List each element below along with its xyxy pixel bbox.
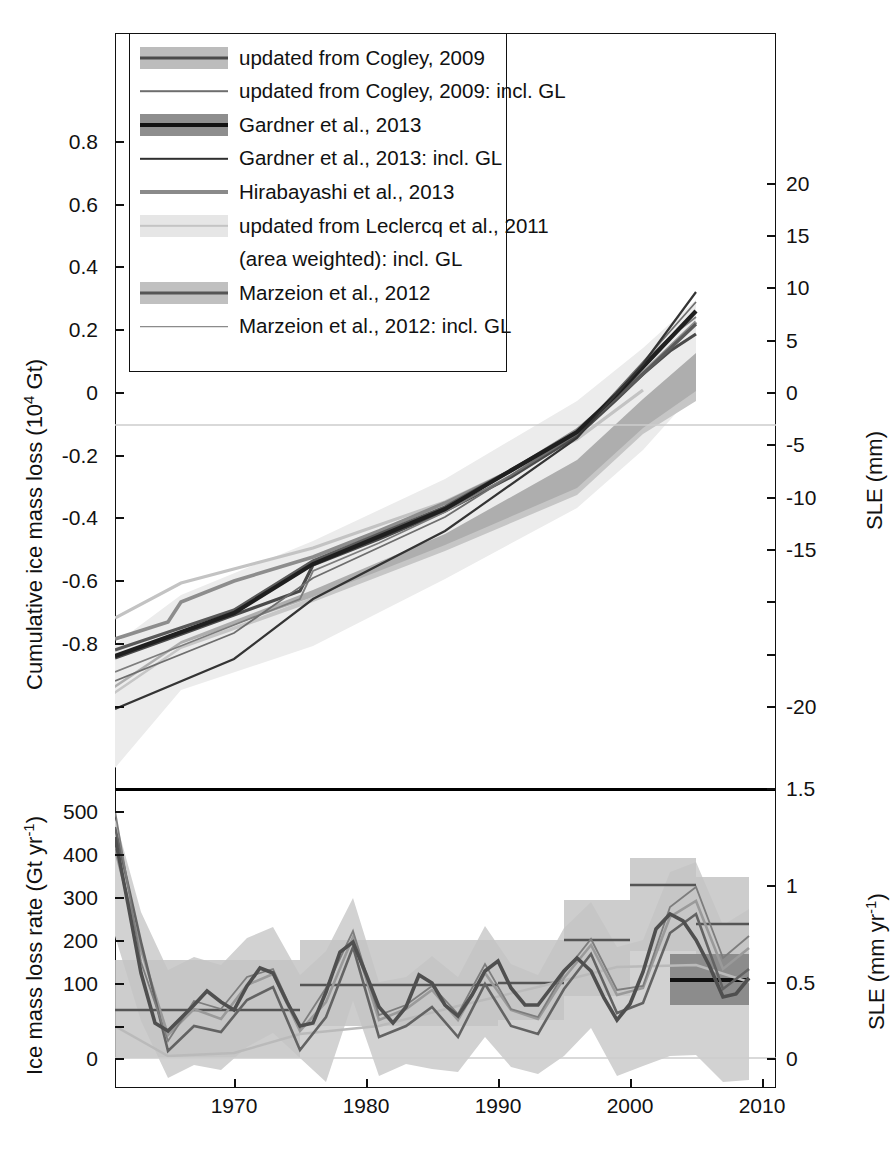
- top-y2tick-label: 20: [786, 172, 809, 196]
- legend-item: Hirabayashi et al., 2013: [140, 175, 498, 209]
- legend-item: Gardner et al., 2013: incl. GL: [140, 142, 498, 176]
- bottom-y2tick-mark: [767, 788, 776, 790]
- legend-item: updated from Cogley, 2009: incl. GL: [140, 75, 498, 109]
- xtick-mark: [762, 1079, 764, 1088]
- xtick-mark: [630, 1079, 632, 1088]
- legend-label: (area weighted): incl. GL: [239, 249, 462, 270]
- legend-label: Marzeion et al., 2012: [239, 283, 430, 304]
- bottom-ytick-mark: [115, 1058, 124, 1060]
- xtick-mark: [366, 1079, 368, 1088]
- legend-item-continuation: (area weighted): incl. GL: [140, 243, 498, 277]
- legend-item: updated from Cogley, 2009: [140, 41, 498, 75]
- top-y2tick-mark: [767, 497, 776, 499]
- top-y2tick-label: -10: [786, 486, 816, 510]
- top-y2tick-mark: [767, 654, 776, 656]
- xtick-label: 2000: [585, 1094, 675, 1118]
- legend-key-line-icon: [140, 314, 228, 340]
- bottom-ytick-mark: [115, 897, 124, 899]
- bottom-ytick-mark: [115, 854, 124, 856]
- top-y2tick-label: -15: [786, 538, 816, 562]
- top-ytick-label: 0.4: [18, 255, 98, 279]
- bottom-y2tick-mark: [767, 885, 776, 887]
- bottom-ytick-mark: [115, 940, 124, 942]
- top-ytick-label: 0.6: [18, 193, 98, 217]
- top-y2tick-label: -5: [786, 433, 805, 457]
- legend-label: Hirabayashi et al., 2013: [239, 182, 454, 203]
- top-ytick-mark: [115, 517, 124, 519]
- legend-item: Marzeion et al., 2012: [140, 276, 498, 310]
- top-y2tick-mark: [767, 235, 776, 237]
- legend-key-band-dark-icon: [140, 112, 228, 138]
- bottom-y2tick-label: 1: [786, 874, 798, 898]
- top-y2tick-mark: [767, 392, 776, 394]
- legend-item: Gardner et al., 2013: [140, 108, 498, 142]
- xtick-label: 1990: [453, 1094, 543, 1118]
- legend-key-line-gray-icon: [140, 179, 228, 205]
- top-y2tick-label: 5: [786, 329, 798, 353]
- bottom-ytick-mark: [115, 811, 124, 813]
- top-panel-ylabel: Cumulative ice mass loss (104 Gt): [20, 359, 48, 690]
- top-ytick-label: 0.2: [18, 318, 98, 342]
- top-ytick-mark: [115, 266, 124, 268]
- top-y2tick-label: 15: [786, 224, 809, 248]
- bottom-y2tick-mark: [767, 982, 776, 984]
- legend-label: updated from Cogley, 2009: [239, 48, 485, 69]
- top-ytick-mark: [115, 329, 124, 331]
- top-ytick-mark: [115, 141, 124, 143]
- top-y2tick-label: -20: [786, 695, 816, 719]
- legend-key-line-icon: [140, 146, 228, 172]
- top-y2tick-mark: [767, 549, 776, 551]
- bottom-ytick-mark: [115, 983, 124, 985]
- top-y2tick-mark: [767, 287, 776, 289]
- legend-key-band-icon: [140, 45, 228, 71]
- bottom-panel-ylabel: Ice mass loss rate (Gt yr-1): [20, 816, 48, 1075]
- legend-label: Gardner et al., 2013: incl. GL: [239, 148, 502, 169]
- legend-label: updated from Cogley, 2009: incl. GL: [239, 81, 566, 102]
- bottom-y2tick-label: 1.5: [786, 777, 815, 801]
- xtick-mark: [498, 1079, 500, 1088]
- bottom-panel-y2label: SLE (mm yr-1): [862, 893, 890, 1030]
- legend-label: Gardner et al., 2013: [239, 115, 421, 136]
- top-panel-y2label: SLE (mm): [862, 431, 888, 530]
- top-y2tick-mark: [767, 444, 776, 446]
- top-ytick-mark: [115, 392, 124, 394]
- legend-key-line-icon: [140, 78, 228, 104]
- xtick-label: 1980: [321, 1094, 411, 1118]
- xtick-label: 1970: [189, 1094, 279, 1118]
- legend-item: Marzeion et al., 2012: incl. GL: [140, 310, 498, 344]
- xtick-label: 2010: [717, 1094, 807, 1118]
- bottom-ytick-mark: [115, 1026, 124, 1028]
- bottom-y2tick-label: 0.5: [786, 971, 815, 995]
- legend-item: updated from Leclercq et al., 2011: [140, 209, 498, 243]
- top-ytick-label: 0.8: [18, 130, 98, 154]
- legend-key-band-light-icon: [140, 213, 228, 239]
- top-ytick-mark: [115, 706, 124, 708]
- bottom-y2tick-mark: [767, 1058, 776, 1060]
- xtick-mark: [234, 1079, 236, 1088]
- top-y2tick-mark: [767, 340, 776, 342]
- top-ytick-mark: [115, 643, 124, 645]
- top-y2tick-label: 0: [786, 381, 798, 405]
- top-ytick-mark: [115, 204, 124, 206]
- legend-box: updated from Cogley, 2009 updated from C…: [129, 33, 507, 372]
- bottom-panel-svg: [115, 788, 776, 1088]
- top-ytick-mark: [115, 580, 124, 582]
- legend-label: updated from Leclercq et al., 2011: [239, 216, 549, 237]
- legend-key-empty: [140, 246, 228, 272]
- top-y2tick-mark: [767, 183, 776, 185]
- top-y2tick-mark: [767, 601, 776, 603]
- bottom-y2tick-label: 0: [786, 1047, 798, 1071]
- top-y2tick-mark: [767, 706, 776, 708]
- legend-key-band-icon: [140, 280, 228, 306]
- top-y2tick-label: 10: [786, 276, 809, 300]
- legend-label: Marzeion et al., 2012: incl. GL: [239, 316, 511, 337]
- bottom-panel-plot-area: [115, 788, 776, 1088]
- top-ytick-mark: [115, 455, 124, 457]
